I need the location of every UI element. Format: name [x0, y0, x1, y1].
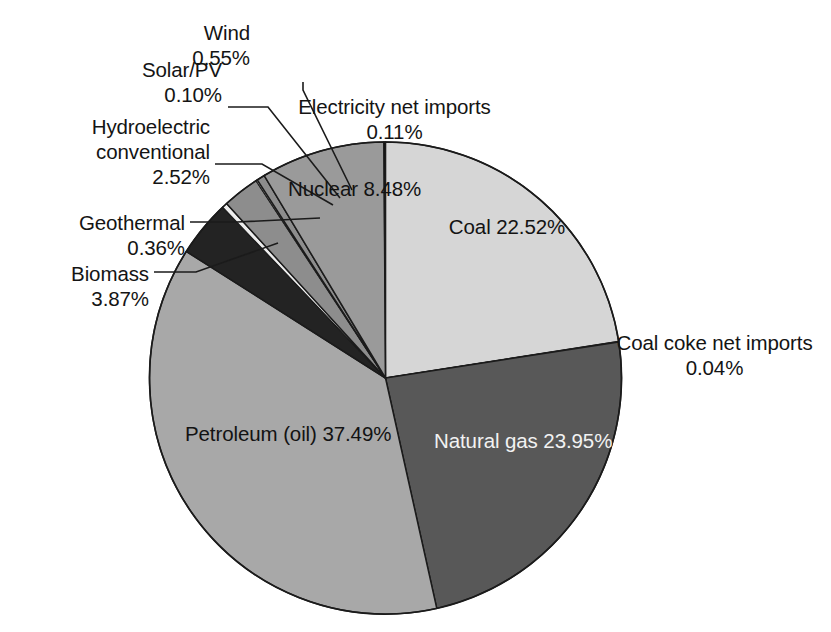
slice-label-electricity-net-imports-value: 0.11% — [282, 119, 507, 144]
slice-label-nuclear-name: Nuclear — [288, 177, 358, 200]
slice-label-coal-coke-net-imports-name: Coal coke net imports — [598, 330, 831, 355]
slice-label-hydroelectric-name2: conventional — [0, 139, 210, 164]
slice-label-geothermal: Geothermal 0.36% — [0, 210, 185, 260]
pie-slice-group: Coal 22.52%Coal coke net imports 0.04%Na… — [150, 142, 622, 614]
pie-chart: Coal 22.52%Coal coke net imports 0.04%Na… — [0, 0, 831, 632]
slice-label-hydroelectric: Hydroelectric conventional 2.52% — [0, 114, 210, 189]
slice-label-geothermal-value: 0.36% — [0, 235, 185, 260]
slice-label-biomass-value: 3.87% — [0, 286, 149, 311]
slice-label-solar-value: 0.10% — [0, 82, 222, 107]
slice-label-hydroelectric-value: 2.52% — [0, 164, 210, 189]
slice-label-nuclear: Nuclear 8.48% — [288, 176, 416, 201]
slice-label-electricity-net-imports: Electricity net imports 0.11% — [282, 94, 507, 144]
slice-label-natural-gas-value: 23.95% — [543, 429, 612, 452]
slice-label-coal-coke-net-imports: Coal coke net imports 0.04% — [598, 330, 831, 380]
slice-label-natural-gas: Natural gas 23.95% — [434, 428, 598, 453]
slice-label-coal-coke-net-imports-value: 0.04% — [598, 355, 831, 380]
slice-label-solar: Solar/PV 0.10% — [0, 57, 222, 107]
slice-label-coal-value: 22.52% — [496, 215, 565, 238]
slice-label-hydroelectric-name: Hydroelectric — [0, 114, 210, 139]
slice-label-coal-name: Coal — [449, 215, 491, 238]
chart-title — [0, 0, 831, 6]
slice-label-petroleum-value: 37.49% — [322, 422, 391, 445]
slice-label-electricity-net-imports-name: Electricity net imports — [282, 94, 507, 119]
slice-label-coal: Coal 22.52% — [437, 214, 577, 239]
slice-label-wind-name: Wind — [35, 20, 250, 45]
slice-label-solar-name: Solar/PV — [0, 57, 222, 82]
slice-label-biomass-name: Biomass — [0, 261, 149, 286]
slice-label-biomass: Biomass 3.87% — [0, 261, 149, 311]
slice-label-nuclear-value: 8.48% — [364, 177, 422, 200]
slice-label-petroleum: Petroleum (oil) 37.49% — [185, 421, 381, 446]
slice-label-petroleum-name: Petroleum (oil) — [185, 422, 317, 445]
slice-label-geothermal-name: Geothermal — [0, 210, 185, 235]
slice-label-natural-gas-name: Natural gas — [434, 429, 538, 452]
